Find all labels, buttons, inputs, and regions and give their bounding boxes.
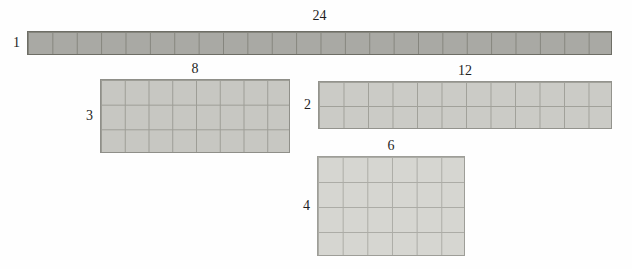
array-1-by-24-top-label: 24 [27,9,612,23]
array-3-by-8-side-label: 3 [86,109,93,123]
array-3-by-8-grid [100,79,290,153]
array-4-by-6-top-label: 6 [317,139,465,153]
array-2-by-12-top-label: 12 [318,64,612,78]
array-4-by-6: 64 [317,156,465,256]
array-2-by-12: 122 [318,81,612,129]
factor-arrays-figure: 2418312264 [0,0,632,269]
array-1-by-24-side-label: 1 [13,36,20,50]
array-2-by-12-grid [318,81,612,129]
array-4-by-6-grid [317,156,465,256]
array-3-by-8-top-label: 8 [100,62,290,76]
array-4-by-6-side-label: 4 [303,199,310,213]
array-3-by-8: 83 [100,79,290,153]
array-1-by-24-grid [27,31,612,55]
array-2-by-12-side-label: 2 [304,98,311,112]
array-1-by-24: 241 [27,31,612,55]
